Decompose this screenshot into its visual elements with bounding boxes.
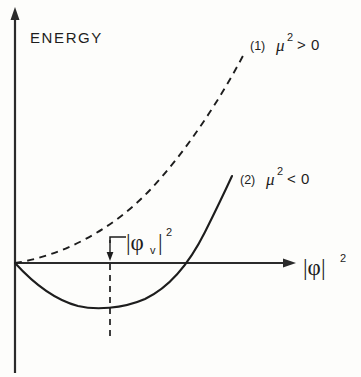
curve-2-label: (2) μ 2 < 0 [240,165,309,189]
vev-label-base: |φ [126,230,144,255]
curve-2-value: 0 [301,170,309,187]
figure-svg: ENERGY |φ| 2 |φ v | 2 (1) μ 2 [0,0,361,377]
curve-2-relation: < [287,170,296,187]
curve-1-relation: > [297,36,306,53]
vev-arrow-head [107,252,114,261]
curve-1-symbol: μ [275,36,285,55]
x-axis [15,259,296,268]
curve-2-number: (2) [240,173,255,187]
vev-pointer [107,237,126,261]
vev-label-closing-bar: | [158,230,163,255]
y-axis-arrowhead [11,7,20,20]
x-axis-arrowhead [283,259,296,268]
curve-2-symbol: μ [265,170,275,189]
x-axis-title-exponent: 2 [340,252,346,264]
vev-label-subscript: v [150,244,156,256]
vev-bracket [110,237,126,243]
vev-label: |φ v | 2 [126,226,172,256]
curve-1-value: 0 [311,36,319,53]
curve-1-number: (1) [250,39,265,53]
x-axis-title: |φ| 2 [303,252,346,280]
curve-2-solid-path [15,176,232,308]
curve-1-symbol-exponent: 2 [287,31,293,43]
y-axis-title: ENERGY [30,29,103,46]
energy-potential-figure: ENERGY |φ| 2 |φ v | 2 (1) μ 2 [0,0,361,377]
y-axis [11,7,20,373]
curve-1-label: (1) μ 2 > 0 [250,31,319,55]
vev-label-exponent: 2 [166,226,172,238]
x-axis-title-base: |φ| [303,255,325,280]
curve-2-symbol-exponent: 2 [277,165,283,177]
